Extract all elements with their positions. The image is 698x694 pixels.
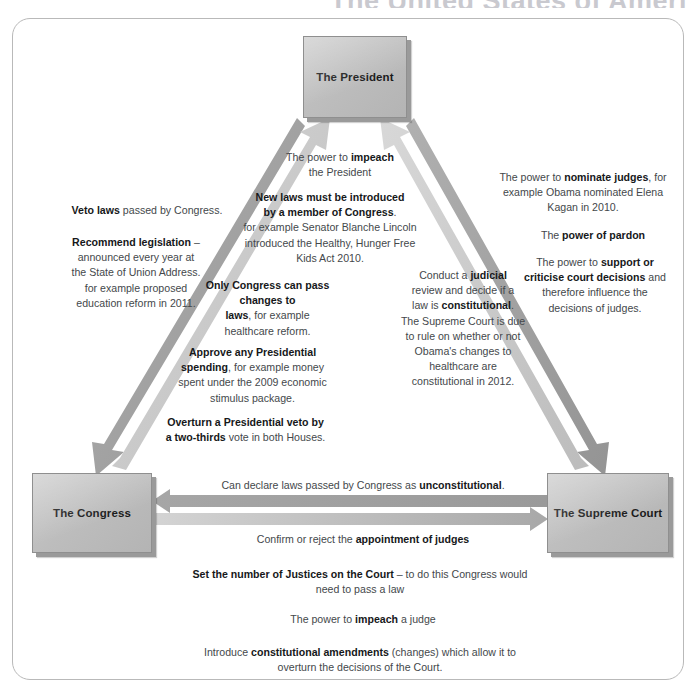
annotation-line: Kagan in 2010.	[478, 200, 688, 215]
annotation-line: Set the number of Justices on the Court …	[150, 567, 570, 582]
annotation-line: constitutional in 2012.	[383, 374, 543, 389]
annotation-line: need to pass a law	[150, 582, 570, 597]
annotation-declare-unconstitutional: Can declare laws passed by Congress as u…	[188, 478, 538, 493]
annotation-line: example Obama nominated Elena	[478, 185, 688, 200]
annotation-line: review and decide if a	[383, 283, 543, 298]
annotation-line: a two-thirds vote in both Houses.	[138, 430, 353, 445]
annotation-line: spent under the 2009 economic	[155, 375, 350, 390]
annotation-line: Veto laws passed by Congress.	[38, 203, 256, 218]
node-the-congress[interactable]: The Congress	[32, 473, 152, 553]
annotation-line: Confirm or reject the appointment of jud…	[188, 532, 538, 547]
annotation-recommend-legislation: Recommend legislation –announced every y…	[22, 235, 250, 311]
annotation-approve-presidential-spending: Approve any Presidentialspending, for ex…	[155, 345, 350, 406]
annotation-line: Conduct a judicial	[383, 268, 543, 283]
annotation-line: The power to nominate judges, for	[478, 170, 688, 185]
node-label-congress: The Congress	[53, 507, 131, 519]
annotation-line: law is constitutional.	[383, 298, 543, 313]
annotation-line: for example Senator Blanche Lincoln	[215, 220, 445, 235]
annotation-line: The power to impeach	[250, 150, 430, 165]
annotation-line: announced every year at	[22, 250, 250, 265]
annotation-impeach-president: The power to impeachthe President	[250, 150, 430, 180]
annotation-line: healthcare reform.	[185, 324, 350, 339]
annotation-judicial-review: Conduct a judicialreview and decide if a…	[383, 268, 543, 390]
annotation-power-of-pardon: The power of pardon	[498, 228, 688, 243]
annotation-line: Recommend legislation –	[22, 235, 250, 250]
node-label-supreme-court: The Supreme Court	[554, 507, 662, 519]
annotation-line: Obama's changes to	[383, 344, 543, 359]
annotation-overturn-presidential-veto: Overturn a Presidential veto bya two-thi…	[138, 415, 353, 445]
node-the-supreme-court[interactable]: The Supreme Court	[547, 473, 669, 553]
node-the-president[interactable]: The President	[303, 36, 407, 118]
annotation-line: education reform in 2011.	[22, 296, 250, 311]
annotation-line: The Supreme Court is due	[383, 314, 543, 329]
annotation-line: for example proposed	[22, 281, 250, 296]
annotation-line: the State of Union Address.	[22, 265, 250, 280]
annotation-line: spending, for example money	[155, 360, 350, 375]
annotation-line: Approve any Presidential	[155, 345, 350, 360]
annotation-line: The power of pardon	[498, 228, 688, 243]
annotation-line: Introduce constitutional amendments (cha…	[150, 645, 570, 660]
diagram-canvas: The United States of Ameri	[0, 0, 698, 694]
annotation-nominate-judges: The power to nominate judges, forexample…	[478, 170, 688, 216]
arrow-congress-to-court	[152, 507, 548, 531]
annotation-line: stimulus package.	[155, 391, 350, 406]
annotation-impeach-a-judge: The power to impeach a judge	[188, 612, 538, 627]
annotation-line: The power to impeach a judge	[188, 612, 538, 627]
annotation-constitutional-amendments: Introduce constitutional amendments (cha…	[150, 645, 570, 675]
annotation-confirm-or-reject-judges: Confirm or reject the appointment of jud…	[188, 532, 538, 547]
node-label-president: The President	[316, 71, 393, 83]
annotation-veto-laws: Veto laws passed by Congress.	[38, 203, 256, 218]
annotation-line: the President	[250, 165, 430, 180]
annotation-set-number-of-justices: Set the number of Justices on the Court …	[150, 567, 570, 597]
annotation-line: healthcare are	[383, 359, 543, 374]
annotation-line: to rule on whether or not	[383, 329, 543, 344]
annotation-line: overturn the decisions of the Court.	[150, 660, 570, 675]
annotation-line: Overturn a Presidential veto by	[138, 415, 353, 430]
annotation-line: Can declare laws passed by Congress as u…	[188, 478, 538, 493]
